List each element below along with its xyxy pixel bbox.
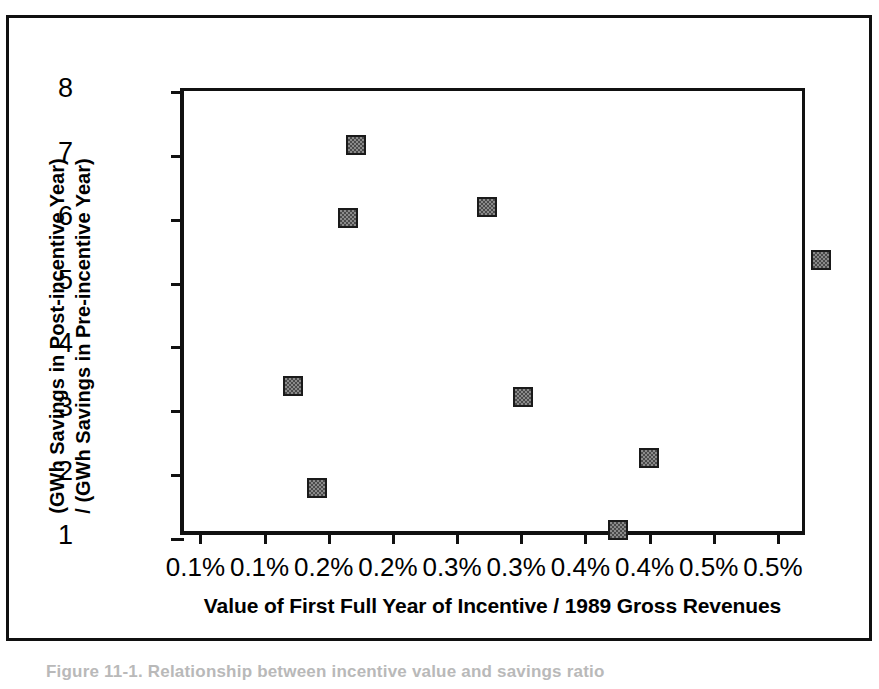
y-axis-tick <box>171 283 184 286</box>
x-axis-tick-label: 0.3% <box>479 553 553 581</box>
data-point-marker <box>639 448 659 468</box>
x-axis-tick <box>199 531 202 544</box>
x-axis-tick <box>264 531 267 544</box>
x-axis-tick <box>649 531 652 544</box>
x-axis-tick-label: 0.5% <box>672 553 746 581</box>
y-axis-tick <box>171 538 184 541</box>
x-axis-tick-label: 0.2% <box>287 553 361 581</box>
x-axis-tick-label: 0.2% <box>351 553 425 581</box>
y-axis-tick-label: 4 <box>33 330 73 357</box>
x-axis-tick <box>328 531 331 544</box>
x-axis-tick <box>520 531 523 544</box>
x-axis-tick-label: 0.4% <box>543 553 617 581</box>
x-axis-tick-label: 0.1% <box>158 553 232 581</box>
data-point-marker <box>283 376 303 396</box>
x-axis-title: Value of First Full Year of Incentive / … <box>180 594 805 618</box>
y-axis-tick-label: 2 <box>33 458 73 485</box>
y-axis-tick-label: 1 <box>33 522 73 549</box>
y-axis-tick <box>171 219 184 222</box>
data-point-marker <box>477 197 497 217</box>
x-axis-tick <box>456 531 459 544</box>
y-axis-tick-label: 8 <box>33 75 73 102</box>
x-axis-tick-label: 0.1% <box>223 553 297 581</box>
data-point-marker <box>513 387 533 407</box>
data-point-marker <box>608 520 628 540</box>
y-axis-tick <box>171 91 184 94</box>
data-point-marker <box>811 250 831 270</box>
x-axis-tick <box>392 531 395 544</box>
y-axis-tick <box>171 155 184 158</box>
x-axis-tick-label: 0.4% <box>608 553 682 581</box>
figure-caption: Figure 11-1. Relationship between incent… <box>46 662 605 682</box>
x-axis-tick <box>777 531 780 544</box>
x-axis-tick-label: 0.5% <box>736 553 810 581</box>
y-axis-title-line2: / (GWh Savings in Pre-incentive Year) <box>70 101 96 571</box>
y-axis-tick-label: 5 <box>33 266 73 293</box>
y-axis-tick-label: 6 <box>33 202 73 229</box>
y-axis-tick <box>171 410 184 413</box>
x-axis-tick <box>584 531 587 544</box>
y-axis-tick <box>171 474 184 477</box>
figure-caption-strip: Figure 11-1. Relationship between incent… <box>6 648 872 689</box>
x-axis-tick-label: 0.3% <box>415 553 489 581</box>
y-axis-tick-label: 7 <box>33 138 73 165</box>
x-axis-tick <box>713 531 716 544</box>
plot-area <box>180 88 805 535</box>
y-axis-tick <box>171 346 184 349</box>
y-axis-tick-label: 3 <box>33 394 73 421</box>
data-point-marker <box>307 478 327 498</box>
scatter-chart: (GWh Savings in Post-incentive Year) / (… <box>0 0 879 689</box>
data-point-marker <box>338 208 358 228</box>
data-point-marker <box>346 135 366 155</box>
